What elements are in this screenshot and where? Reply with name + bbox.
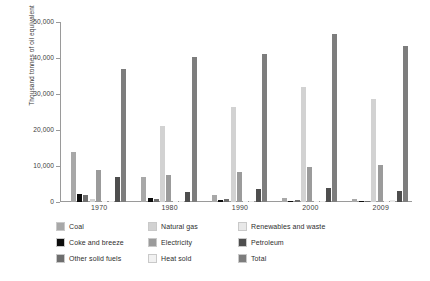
bar xyxy=(384,201,389,202)
legend-swatch-icon xyxy=(56,238,65,247)
bar xyxy=(109,201,114,202)
legend-swatch-icon xyxy=(238,222,247,231)
bar xyxy=(256,189,261,202)
bar xyxy=(307,167,312,202)
legend-item: Coal xyxy=(56,222,148,231)
bar xyxy=(262,54,267,202)
bar xyxy=(243,201,248,202)
bar xyxy=(121,69,126,202)
x-axis-tick-label: 1990 xyxy=(232,204,248,211)
bar xyxy=(173,201,178,202)
legend-item: Other solid fuels xyxy=(56,254,148,263)
y-tick-mark xyxy=(56,202,60,203)
legend-item: Electricity xyxy=(148,238,238,247)
x-axis-tick-label: 2000 xyxy=(302,204,318,211)
bar xyxy=(96,170,101,202)
legend-label: Natural gas xyxy=(161,223,198,230)
bar xyxy=(295,200,300,202)
legend-item: Heat sold xyxy=(148,254,238,263)
legend-swatch-icon xyxy=(148,222,157,231)
legend-swatch-icon xyxy=(148,254,157,263)
y-tick-mark xyxy=(56,94,60,95)
legend-label: Other solid fuels xyxy=(69,255,121,262)
y-tick-mark xyxy=(56,58,60,59)
y-tick-mark xyxy=(56,166,60,167)
plot-area: 010,00020,00030,00040,00050,000 19701980… xyxy=(60,22,412,202)
bar xyxy=(397,191,402,202)
legend-item: Petroleum xyxy=(238,238,368,247)
legend-item: Total xyxy=(238,254,368,263)
bar xyxy=(77,194,82,202)
x-axis-tick-label: 2009 xyxy=(373,204,389,211)
x-axis-tick-label: 1980 xyxy=(161,204,177,211)
legend-label: Coal xyxy=(69,223,84,230)
bar xyxy=(102,201,107,202)
bar xyxy=(212,195,217,202)
bar xyxy=(160,126,165,202)
bar xyxy=(192,57,197,202)
bar xyxy=(282,198,287,202)
bar xyxy=(352,199,357,202)
legend-swatch-icon xyxy=(56,222,65,231)
bar xyxy=(320,201,325,202)
bar xyxy=(224,199,229,202)
bar xyxy=(249,201,254,202)
bar xyxy=(141,177,146,202)
bar xyxy=(179,201,184,202)
legend-label: Renewables and waste xyxy=(251,223,325,230)
legend-swatch-icon xyxy=(56,254,65,263)
bar xyxy=(218,200,223,202)
bar xyxy=(90,199,95,202)
legend-label: Petroleum xyxy=(251,239,284,246)
y-axis-line xyxy=(60,22,61,202)
bar xyxy=(237,172,242,202)
bar xyxy=(83,195,88,202)
y-tick-mark xyxy=(56,22,60,23)
bar xyxy=(326,188,331,202)
legend-swatch-icon xyxy=(148,238,157,247)
y-tick-label: 0 xyxy=(50,198,54,205)
bar xyxy=(301,87,306,202)
bar xyxy=(403,46,408,202)
y-tick-label: 40,000 xyxy=(33,54,54,61)
legend-label: Heat sold xyxy=(161,255,191,262)
legend-item: Renewables and waste xyxy=(238,222,368,231)
bar xyxy=(71,152,76,202)
legend-swatch-icon xyxy=(238,254,247,263)
bar xyxy=(359,201,364,202)
y-tick-label: 50,000 xyxy=(33,18,54,25)
x-axis-tick-label: 1970 xyxy=(91,204,107,211)
bar-group xyxy=(352,22,409,202)
y-tick-label: 30,000 xyxy=(33,90,54,97)
y-tick-mark xyxy=(56,130,60,131)
bar xyxy=(185,192,190,202)
legend-label: Coke and breeze xyxy=(69,239,124,246)
legend-item: Natural gas xyxy=(148,222,238,231)
y-tick-label: 10,000 xyxy=(33,162,54,169)
bar xyxy=(148,198,153,202)
bar-group xyxy=(282,22,339,202)
bar xyxy=(115,177,120,202)
bar-group xyxy=(71,22,128,202)
bar xyxy=(154,199,159,202)
y-tick-label: 20,000 xyxy=(33,126,54,133)
bar xyxy=(314,201,319,202)
bar xyxy=(378,165,383,202)
bar-group xyxy=(141,22,198,202)
bar xyxy=(390,200,395,202)
bar xyxy=(166,175,171,202)
bar-group xyxy=(212,22,269,202)
chart-legend: CoalNatural gasRenewables and wasteCoke … xyxy=(56,218,396,266)
bar xyxy=(332,34,337,202)
bar xyxy=(288,201,293,202)
legend-label: Electricity xyxy=(161,239,192,246)
bar xyxy=(371,99,376,202)
legend-item: Coke and breeze xyxy=(56,238,148,247)
bar xyxy=(231,107,236,202)
bar xyxy=(365,201,370,202)
legend-swatch-icon xyxy=(238,238,247,247)
legend-label: Total xyxy=(251,255,266,262)
bar-chart: Thousand tonnes of oil equivalent 010,00… xyxy=(0,0,430,281)
